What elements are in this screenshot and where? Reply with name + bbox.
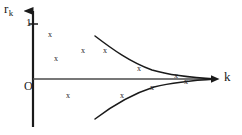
- data-point: x: [48, 31, 52, 39]
- y-axis-label-base: r: [4, 1, 8, 16]
- x-axis-label: k: [224, 70, 231, 83]
- y-axis-label-subscript: k: [9, 8, 14, 18]
- autocorrelation-figure: rk k O 1 xxxxxxxxxx: [0, 0, 242, 135]
- data-point: x: [103, 47, 107, 55]
- data-point: x: [120, 92, 124, 100]
- y-axis-label: rk: [4, 2, 13, 18]
- y-axis-tick-label-1: 1: [26, 17, 32, 28]
- data-point: x: [81, 47, 85, 55]
- upper-envelope-curve: [95, 36, 216, 79]
- origin-label: O: [24, 80, 33, 92]
- data-point: x: [54, 55, 58, 63]
- plot-canvas: [0, 0, 242, 135]
- data-point: x: [184, 78, 188, 86]
- data-point: x: [150, 84, 154, 92]
- data-point: x: [137, 65, 141, 73]
- lower-envelope-curve: [95, 79, 216, 119]
- data-point: x: [66, 92, 70, 100]
- data-point: x: [174, 72, 178, 80]
